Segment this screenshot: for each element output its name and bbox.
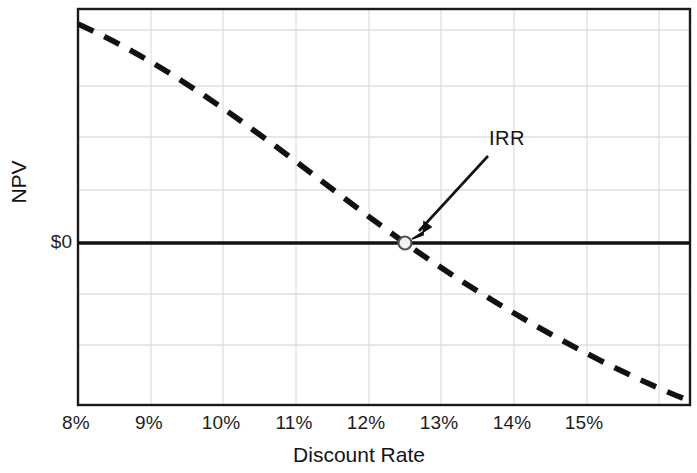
x-axis-title: Discount Rate <box>229 443 489 467</box>
x-tick-label-12: 12% <box>331 412 401 434</box>
x-tick-label-9: 9% <box>114 412 184 434</box>
x-tick-label-14: 14% <box>477 412 547 434</box>
horizontal-gridlines <box>78 30 690 345</box>
npv-irr-chart-figure: NPV $0 8% 9% 10% 11% 12% 13% 14% 15% Dis… <box>0 0 697 473</box>
x-tick-label-8: 8% <box>41 412 111 434</box>
irr-point-marker <box>399 237 412 250</box>
x-tick-label-11: 11% <box>259 412 329 434</box>
vertical-gridlines <box>151 9 659 405</box>
x-tick-label-15: 15% <box>549 412 619 434</box>
npv-profile-line <box>78 24 690 401</box>
x-tick-label-10: 10% <box>186 412 256 434</box>
y-axis-title: NPV <box>7 150 31 214</box>
plot-frame <box>78 9 690 405</box>
irr-arrow-icon <box>412 156 488 239</box>
x-tick-label-13: 13% <box>404 412 474 434</box>
y-tick-label-zero: $0 <box>26 231 72 253</box>
irr-annotation-label: IRR <box>489 127 525 150</box>
chart-canvas <box>0 0 697 473</box>
